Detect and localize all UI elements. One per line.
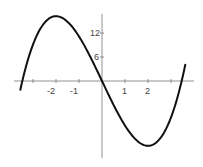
y-tick-label: 12 [90, 28, 100, 38]
x-tick-label: -1 [70, 86, 78, 96]
y-tick-label: 6 [94, 52, 99, 62]
x-tick-label: 1 [122, 86, 127, 96]
x-tick-label: -2 [47, 86, 55, 96]
chart: -2 -1 1 2 12 6 [0, 0, 203, 167]
x-tick-label: 2 [145, 86, 150, 96]
